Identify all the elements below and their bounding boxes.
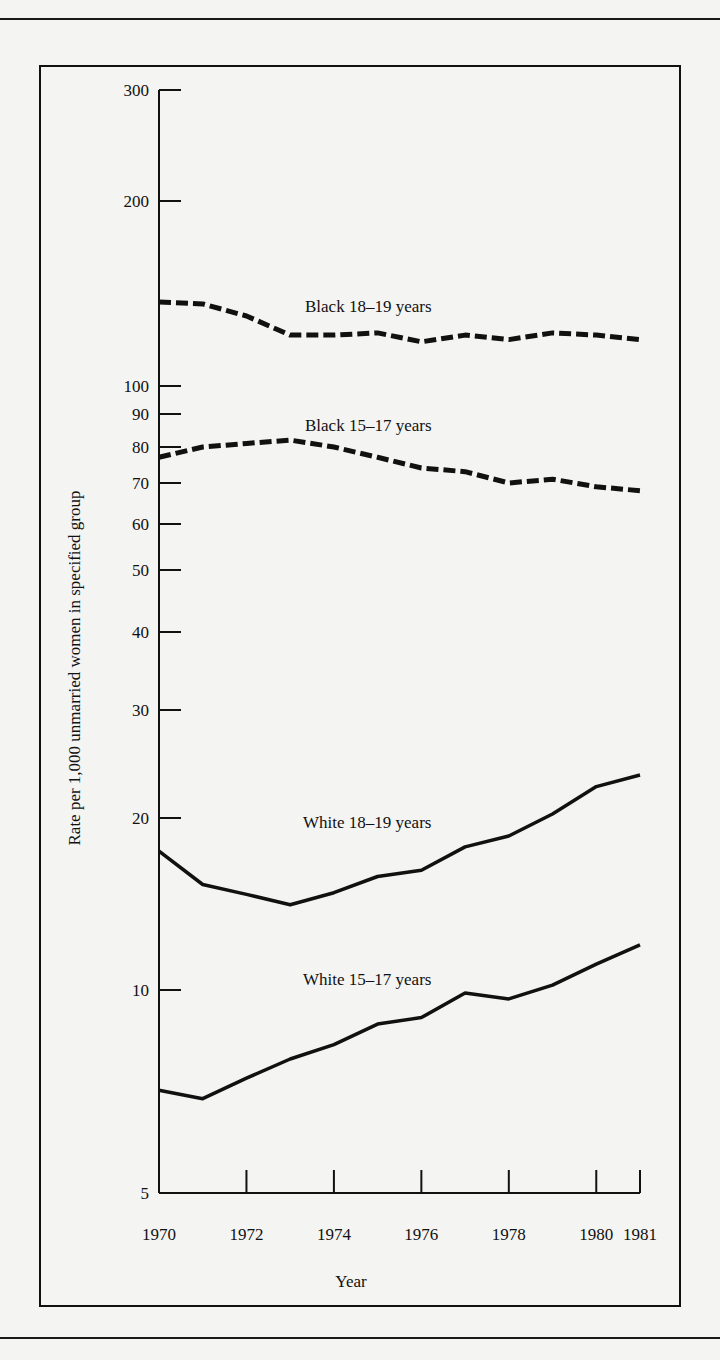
x-tick-label: 1981 <box>623 1225 657 1244</box>
series-label-black-18-19: Black 18–19 years <box>305 297 432 316</box>
series-line-3 <box>159 945 640 1099</box>
series-label-white-18-19: White 18–19 years <box>303 813 431 832</box>
y-tick-label: 5 <box>141 1184 150 1203</box>
y-tick-label: 100 <box>124 377 150 396</box>
y-tick-label: 80 <box>132 438 149 457</box>
x-tick-label: 1976 <box>404 1225 438 1244</box>
chart-frame <box>40 66 680 1306</box>
series-line-1 <box>159 440 640 491</box>
y-tick-label: 50 <box>132 561 149 580</box>
series-label-white-15-17: White 15–17 years <box>303 970 431 989</box>
x-tick-label: 1980 <box>579 1225 613 1244</box>
y-tick-label: 10 <box>132 981 149 1000</box>
y-tick-label: 60 <box>132 515 149 534</box>
y-tick-label: 70 <box>132 474 149 493</box>
x-axis-label: Year <box>335 1272 367 1291</box>
x-tick-label: 1974 <box>317 1225 352 1244</box>
y-tick-label: 30 <box>132 701 149 720</box>
y-tick-label: 200 <box>124 192 150 211</box>
x-tick-label: 1972 <box>229 1225 263 1244</box>
series-label-black-15-17: Black 15–17 years <box>305 416 432 435</box>
axes: 5102030405060708090100200300197019721974… <box>124 81 658 1244</box>
y-tick-label: 40 <box>132 623 149 642</box>
y-axis-label: Rate per 1,000 unmarried women in specif… <box>65 490 84 845</box>
y-tick-label: 300 <box>124 81 150 100</box>
y-tick-label: 20 <box>132 809 149 828</box>
chart: 5102030405060708090100200300197019721974… <box>0 0 720 1360</box>
x-tick-label: 1970 <box>142 1225 176 1244</box>
x-tick-label: 1978 <box>492 1225 526 1244</box>
series-line-2 <box>159 775 640 905</box>
y-tick-label: 90 <box>132 405 149 424</box>
